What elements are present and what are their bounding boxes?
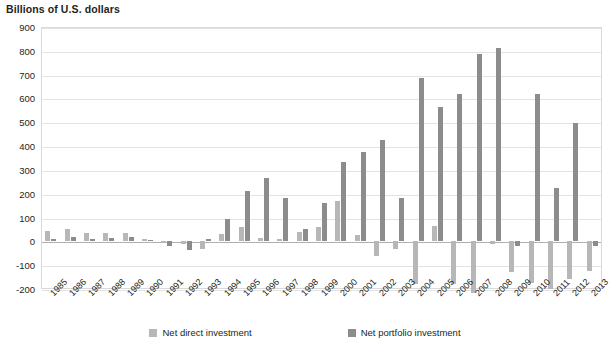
bar-net-portfolio-investment-2004 [419,78,424,241]
bar-net-portfolio-investment-2013 [593,241,598,246]
bar-net-portfolio-investment-2001 [361,152,366,241]
y-axis-tick-label: 800 [0,45,35,56]
bar-net-direct-investment-2003 [393,241,398,248]
y-axis-tick-label: 100 [0,212,35,223]
bar-net-portfolio-investment-2008 [496,48,501,241]
bar-net-direct-investment-1988 [103,233,108,241]
bar-net-portfolio-investment-2006 [457,94,462,242]
bars-layer [41,27,602,289]
bar-net-portfolio-investment-2003 [399,198,404,241]
bar-net-portfolio-investment-1988 [109,238,114,242]
bar-net-portfolio-investment-1986 [71,237,76,242]
y-axis-tick-label: 400 [0,141,35,152]
bar-net-direct-investment-1999 [316,227,321,241]
chart-legend: Net direct investmentNet portfolio inves… [0,327,610,338]
bar-net-direct-investment-2001 [355,235,360,241]
bar-net-portfolio-investment-2009 [515,241,520,246]
bar-net-portfolio-investment-1992 [187,241,192,249]
bar-net-direct-investment-1995 [239,227,244,241]
chart-container: Billions of U.S. dollars 900800700600500… [0,0,610,347]
bar-net-portfolio-investment-2000 [341,162,346,242]
bar-net-direct-investment-1985 [45,231,50,242]
bar-net-portfolio-investment-2011 [554,188,559,242]
legend-item-direct[interactable]: Net direct investment [149,327,251,338]
y-axis-tick-label: 500 [0,117,35,128]
bar-net-direct-investment-1996 [258,238,263,242]
bar-net-portfolio-investment-1987 [90,239,95,241]
bar-net-direct-investment-1997 [277,239,282,241]
bar-net-direct-investment-1986 [65,229,70,241]
bar-net-direct-investment-1987 [84,233,89,241]
bar-net-portfolio-investment-2005 [438,107,443,242]
bar-net-portfolio-investment-1990 [148,240,153,241]
bar-net-portfolio-investment-2002 [380,140,385,241]
legend-label: Net portfolio investment [361,327,461,338]
legend-swatch-icon [149,329,157,337]
bar-net-direct-investment-1992 [181,241,186,243]
bar-net-direct-investment-2004 [413,241,418,284]
bar-net-direct-investment-1998 [297,232,302,242]
bar-net-direct-investment-1993 [200,241,205,248]
y-axis-tick-label: 0 [0,236,35,247]
legend-label: Net direct investment [162,327,251,338]
bar-net-portfolio-investment-1998 [303,229,308,241]
bar-net-portfolio-investment-1997 [283,198,288,241]
bar-net-portfolio-investment-2012 [573,123,578,241]
bar-net-direct-investment-2009 [509,241,514,272]
bar-net-portfolio-investment-2010 [535,94,540,242]
x-axis: 1985198619871988198919901991199219931994… [41,291,602,331]
bar-net-portfolio-investment-1993 [206,239,211,241]
bar-net-portfolio-investment-2007 [477,54,482,241]
y-axis-tick-label: 600 [0,93,35,104]
y-axis-tick-label: -200 [0,284,35,295]
bar-net-direct-investment-1990 [142,239,147,241]
bar-net-direct-investment-2000 [335,201,340,241]
bar-net-direct-investment-1989 [123,233,128,241]
bar-net-portfolio-investment-1999 [322,203,327,241]
bar-net-direct-investment-1994 [219,234,224,241]
bar-net-direct-investment-2006 [451,241,456,284]
legend-item-portfolio[interactable]: Net portfolio investment [348,327,461,338]
bar-net-portfolio-investment-1991 [167,241,172,246]
bar-net-direct-investment-1991 [161,241,166,242]
bar-net-portfolio-investment-1994 [225,219,230,242]
y-axis-tick-label: -100 [0,260,35,271]
legend-swatch-icon [348,329,356,337]
bar-net-direct-investment-2002 [374,241,379,255]
bar-net-direct-investment-2005 [432,226,437,241]
bar-net-direct-investment-2010 [529,241,534,283]
bar-net-portfolio-investment-1996 [264,178,269,241]
y-axis-tick-label: 900 [0,22,35,33]
y-axis-tick-label: 700 [0,69,35,80]
bar-net-direct-investment-2012 [567,241,572,279]
y-axis-tick-label: 300 [0,164,35,175]
bar-net-portfolio-investment-1985 [51,239,56,241]
bar-net-portfolio-investment-1989 [129,237,134,242]
bar-net-portfolio-investment-1995 [245,191,250,241]
bar-net-direct-investment-2008 [490,241,495,243]
y-axis-tick-label: 200 [0,188,35,199]
bar-net-direct-investment-2013 [587,241,592,271]
